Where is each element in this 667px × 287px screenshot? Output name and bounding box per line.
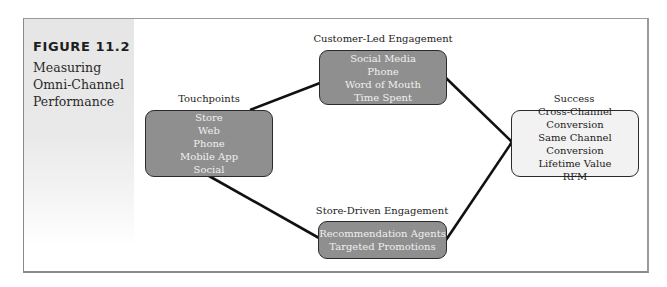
touchpoints-node: Store Web Phone Mobile App Social xyxy=(145,110,273,177)
success-item: Lifetime Value xyxy=(538,157,611,170)
store-driven-item: Recommendation Agents xyxy=(319,227,446,240)
touchpoints-label: Touchpoints xyxy=(178,93,240,104)
success-label: Success xyxy=(554,93,595,104)
success-item: Cross-Channel xyxy=(538,105,612,118)
touchpoint-item: Mobile App xyxy=(180,150,238,163)
edge-customer-led-success xyxy=(446,78,512,142)
customer-led-label: Customer-Led Engagement xyxy=(313,33,452,44)
customer-led-node: Social Media Phone Word of Mouth Time Sp… xyxy=(319,50,447,105)
success-item: Conversion xyxy=(546,118,603,131)
touchpoint-item: Web xyxy=(198,124,220,137)
store-driven-node: Recommendation Agents Targeted Promotion… xyxy=(318,221,447,259)
customer-led-item: Word of Mouth xyxy=(345,78,421,91)
edge-touchpoints-store-driven xyxy=(209,176,319,238)
success-item: Same Channel Conversion xyxy=(512,131,638,157)
customer-led-item: Phone xyxy=(367,65,399,78)
edge-touchpoints-customer-led xyxy=(250,83,320,110)
touchpoint-item: Phone xyxy=(193,137,225,150)
success-node: Cross-Channel Conversion Same Channel Co… xyxy=(511,110,639,177)
customer-led-item: Time Spent xyxy=(354,91,412,104)
store-driven-item: Targeted Promotions xyxy=(329,240,435,253)
touchpoint-item: Social xyxy=(194,163,225,176)
customer-led-item: Social Media xyxy=(350,52,416,65)
edge-store-driven-success xyxy=(446,142,512,240)
touchpoint-item: Store xyxy=(195,111,223,124)
success-item: RFM xyxy=(563,170,588,183)
store-driven-label: Store-Driven Engagement xyxy=(316,205,448,216)
